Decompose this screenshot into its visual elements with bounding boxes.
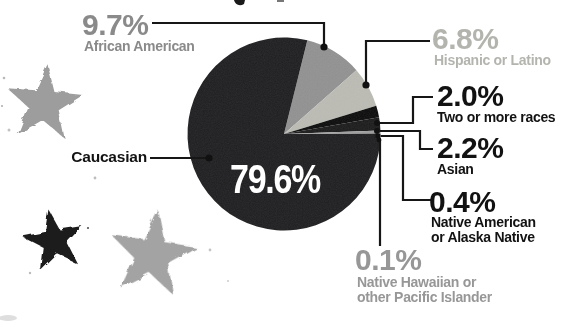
label-line: Native American: [431, 215, 536, 230]
dot-two-or-more: [374, 120, 380, 126]
leader-native-american: [381, 136, 433, 200]
label-line: or Alaska Native: [431, 230, 536, 245]
leader-hispanic: [366, 41, 430, 83]
dot-african-american: [320, 43, 327, 50]
pie-grain-overlay: [188, 38, 381, 231]
percent-label-hispanic: 6.8%: [432, 24, 498, 54]
category-label-hispanic: Hispanic or Latino: [434, 53, 551, 68]
star-icon: [3, 61, 85, 140]
label-line: other Pacific Islander: [357, 290, 492, 305]
category-label-native-american: Native American or Alaska Native: [431, 215, 536, 244]
leader-two-or-more: [380, 97, 433, 123]
category-label-two-or-more: Two or more races: [437, 110, 555, 125]
percent-label-native-hawaiian: 0.1%: [355, 245, 421, 275]
percent-label-caucasian-inside-pie: 79.6%: [230, 159, 320, 199]
star-icon: [105, 204, 201, 297]
percent-label-native-american: 0.4%: [429, 187, 495, 217]
percent-label-asian: 2.2%: [437, 133, 503, 163]
leader-asian: [380, 131, 433, 149]
dot-hispanic: [362, 81, 369, 88]
title-fragment: [234, 0, 284, 5]
category-label-caucasian: Caucasian: [18, 149, 147, 165]
category-label-asian: Asian: [437, 162, 474, 177]
category-label-native-hawaiian: Native Hawaiian or other Pacific Islande…: [357, 275, 492, 304]
star-icon: [18, 204, 88, 272]
label-line: Native Hawaiian or: [357, 275, 492, 290]
percent-label-two-or-more: 2.0%: [437, 81, 503, 111]
percent-label-african-american: 9.7%: [82, 10, 148, 40]
decor-stars: [3, 61, 200, 297]
category-label-african-american: African American: [84, 39, 195, 54]
dot-native-hawaiian: [377, 138, 382, 143]
dot-caucasian: [205, 154, 212, 161]
infographic-pie-chart: 9.7% African American 6.8% Hispanic or L…: [0, 0, 570, 323]
dot-asian: [374, 128, 380, 134]
